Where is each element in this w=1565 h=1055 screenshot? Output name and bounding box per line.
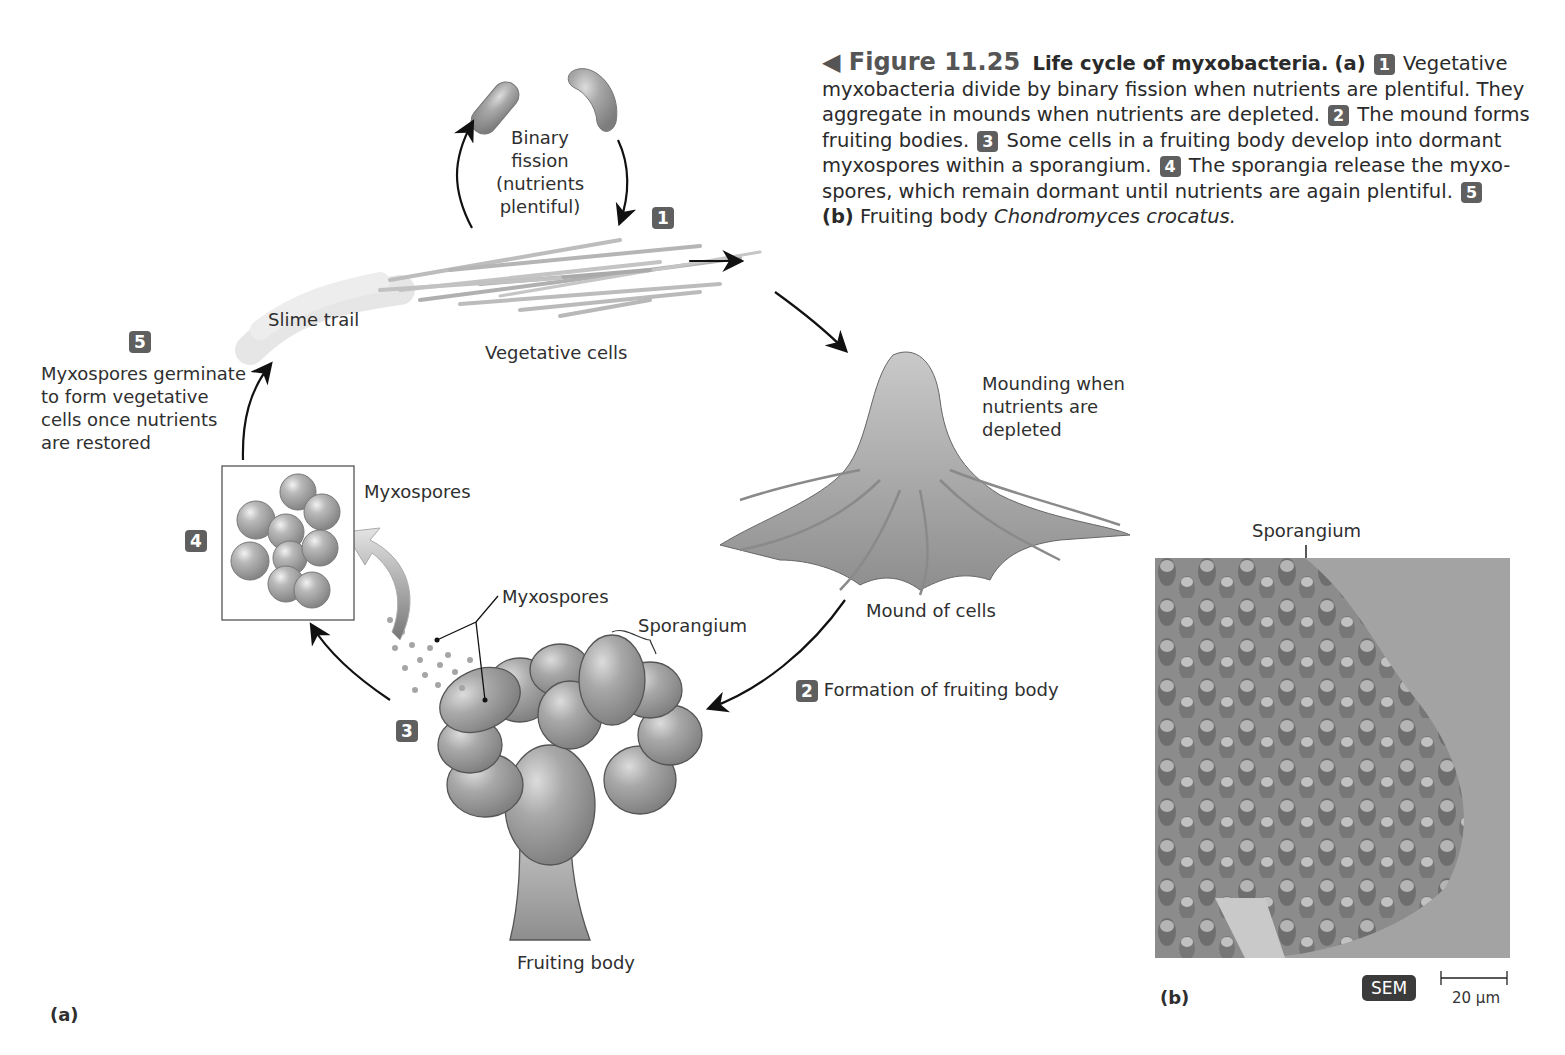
- figure-number: ◀ Figure 11.25: [822, 48, 1020, 76]
- sem-sporangium-label: Sporangium: [1252, 519, 1361, 542]
- fruiting-body-label: Fruiting body: [517, 951, 635, 974]
- step-3-badge: 3: [396, 720, 418, 742]
- vegetative-cells-drawing: [250, 240, 760, 350]
- step-5-label: Myxospores germinate to form vegetative …: [41, 362, 246, 454]
- fruiting-body-drawing: [429, 635, 702, 940]
- myxospores-box-label: Myxospores: [364, 480, 471, 503]
- step-badge-1: 1: [1374, 54, 1395, 75]
- sporangium-label: Sporangium: [638, 614, 747, 637]
- figure-title: Life cycle of myxobacteria.: [1033, 52, 1329, 75]
- scale-bar-label: 20 µm: [1452, 989, 1500, 1007]
- scale-bar: [1441, 971, 1507, 985]
- species-name: Chondromyces crocatus.: [994, 205, 1236, 228]
- step-2-badge: 2: [796, 680, 818, 702]
- step-badge-4: 4: [1160, 156, 1181, 177]
- step-2-label: 2 Formation of fruiting body: [796, 678, 1059, 702]
- step-5-badge: 5: [129, 331, 151, 353]
- sem-badge: SEM: [1362, 975, 1416, 1001]
- mounding-label: Mounding when nutrients are depleted: [982, 372, 1125, 441]
- step-1-badge: 1: [652, 207, 674, 229]
- sem-micrograph: [1155, 558, 1510, 958]
- myxospores-pointer-label: Myxospores: [502, 585, 609, 608]
- step-badge-3: 3: [977, 131, 998, 152]
- binary-fission-label: Binary fission (nutrients plentiful): [490, 126, 590, 218]
- slime-trail-label: Slime trail: [268, 308, 359, 331]
- figure-caption: ◀ Figure 11.25 Life cycle of myxobacteri…: [822, 50, 1562, 230]
- vegetative-cells-label: Vegetative cells: [485, 341, 627, 364]
- mound-of-cells-label: Mound of cells: [866, 599, 996, 622]
- part-b-label: (b): [1160, 986, 1189, 1009]
- step-4-badge: 4: [185, 530, 207, 552]
- step-badge-2: 2: [1328, 105, 1349, 126]
- step-badge-5: 5: [1461, 182, 1482, 203]
- part-a-label: (a): [50, 1003, 79, 1026]
